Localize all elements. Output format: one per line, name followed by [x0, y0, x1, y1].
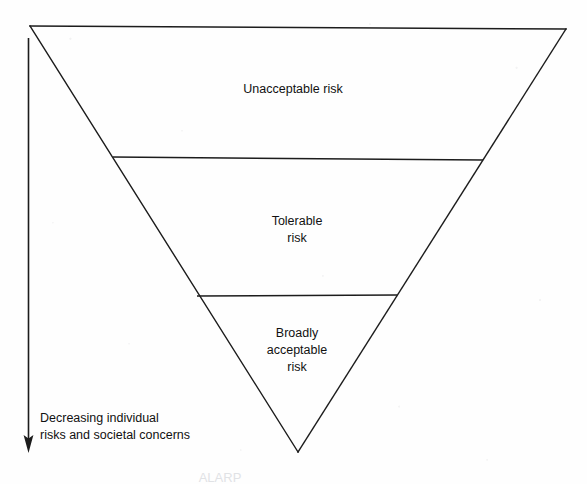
arrow-caption-line-1: Decreasing individual: [40, 411, 159, 425]
band-label-broadly-acceptable-risk: Broadly acceptable risk: [267, 326, 328, 374]
decreasing-risk-arrow-caption: Decreasing individual risks and societal…: [40, 411, 190, 442]
band-label-tolerable-risk: Tolerable risk: [272, 214, 323, 245]
band-label-broadly-acceptable-risk-line-3: risk: [287, 360, 307, 374]
arrow-caption-line-2: risks and societal concerns: [40, 428, 190, 442]
figure-canvas: Unacceptable risk Tolerable risk Broadly…: [0, 0, 587, 484]
band-label-tolerable-risk-line-1: Tolerable: [272, 214, 323, 228]
divider-tolerable-broadly-acceptable: [197, 295, 397, 296]
decreasing-risk-arrow: [24, 38, 34, 453]
triangle-top-edge: [30, 26, 566, 29]
band-label-broadly-acceptable-risk-line-2: acceptable: [267, 343, 328, 357]
band-label-tolerable-risk-line-2: risk: [287, 231, 307, 245]
band-label-unacceptable-risk-line-1: Unacceptable risk: [243, 82, 343, 96]
band-label-unacceptable-risk: Unacceptable risk: [243, 82, 343, 96]
footer-ghost-caption: ALARP: [199, 470, 242, 484]
band-label-broadly-acceptable-risk-line-1: Broadly: [276, 326, 319, 340]
divider-unacceptable-tolerable: [113, 157, 483, 160]
risk-tolerability-triangle-diagram: Unacceptable risk Tolerable risk Broadly…: [0, 0, 587, 484]
